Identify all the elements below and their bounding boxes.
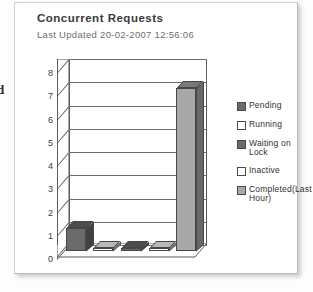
bar (176, 88, 196, 251)
bar-front-face (121, 248, 141, 251)
bar (66, 228, 86, 251)
bar-side-face (196, 82, 204, 252)
y-axis-tick-label: 8 (48, 68, 53, 78)
bar-front-face (149, 248, 169, 251)
legend-label: Running (249, 120, 282, 129)
legend-label: Waiting onLock (249, 139, 291, 157)
y-axis-tick-label: 7 (48, 91, 53, 101)
chart-title: Concurrent Requests (37, 12, 163, 24)
legend-swatch (237, 121, 246, 130)
bar (121, 248, 141, 251)
y-axis-tick-label: 4 (48, 161, 53, 171)
bar-chart: 012345678 (31, 53, 231, 273)
bar-front-face (93, 248, 113, 251)
page-edge-text-fragment: d (0, 83, 4, 96)
chart-panel: Concurrent Requests Last Updated 20-02-2… (14, 2, 298, 274)
legend-swatch (237, 167, 246, 176)
y-axis-tick-label: 2 (48, 208, 53, 218)
legend-item: Running (237, 120, 313, 130)
legend-swatch (237, 140, 246, 149)
y-axis-tick-label: 6 (48, 115, 53, 125)
legend-label: Completed(LastHour) (249, 185, 312, 203)
y-axis-tick-label: 5 (48, 138, 53, 148)
legend-item: Pending (237, 101, 313, 111)
legend-swatch (237, 102, 246, 111)
chart-screenshot: d Concurrent Requests Last Updated 20-02… (0, 0, 313, 292)
gridline (69, 59, 207, 60)
legend-label: Inactive (249, 166, 280, 175)
legend-label: Pending (249, 101, 282, 110)
y-axis-tick-label: 1 (48, 231, 53, 241)
legend-item: Completed(LastHour) (237, 185, 313, 203)
last-updated-text: Last Updated 20-02-2007 12:56:06 (37, 29, 194, 40)
legend-item: Inactive (237, 166, 313, 176)
bar-front-face (176, 88, 196, 251)
plot-area: 012345678 (57, 59, 207, 257)
legend-swatch (237, 186, 246, 195)
bar (93, 248, 113, 251)
bar (149, 248, 169, 251)
y-axis-tick-label: 0 (48, 254, 53, 264)
legend-item: Waiting onLock (237, 139, 313, 157)
y-axis-tick-label: 3 (48, 184, 53, 194)
bar-front-face (66, 228, 86, 251)
y-axis-line (57, 59, 58, 245)
chart-legend: PendingRunningWaiting onLockInactiveComp… (237, 101, 313, 212)
